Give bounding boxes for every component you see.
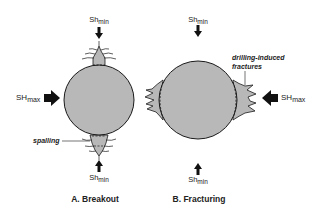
sh-max-arrow-left-b (262, 90, 278, 106)
breakout-bottom (90, 135, 108, 156)
sh-min-arrow-down-a (95, 27, 103, 39)
sh-max-arrow-right-a (44, 90, 60, 106)
sh-max-label-b: SHmax (281, 93, 306, 103)
sh-min-arrow-up-b (194, 163, 202, 175)
fracture-label-line2: fractures (232, 63, 262, 70)
sh-min-arrow-down-b (194, 25, 202, 37)
panel-breakout (44, 27, 134, 172)
caption-b: B. Fracturing (173, 194, 226, 204)
sh-min-label-bottom-a: Shmin (89, 173, 109, 183)
borehole-a (64, 65, 134, 135)
panel-fracturing (145, 25, 278, 175)
caption-a: A. Breakout (71, 194, 119, 204)
sh-min-label-top-a: Shmin (89, 15, 109, 25)
sh-min-label-top-b: Shmin (188, 15, 208, 25)
borehole-stress-diagram: Shmin Shmin SHmax spalling Shmin Shmin S… (0, 0, 319, 218)
borehole-b (159, 61, 237, 139)
sh-min-arrow-up-a (95, 160, 103, 172)
fracture-label-line1: drilling-induced (232, 54, 285, 62)
sh-min-label-bottom-b: Shmin (188, 175, 208, 185)
spalling-label: spalling (33, 137, 60, 145)
sh-max-label-a: SHmax (16, 93, 41, 103)
